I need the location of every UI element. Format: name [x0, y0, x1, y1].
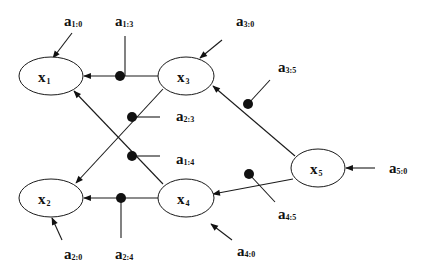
dot-a4-5	[244, 169, 254, 179]
dot-a1-3	[115, 71, 125, 81]
label-a1-4: a1:4	[176, 151, 194, 167]
network-diagram: x1 x3 x2 x4 x5 a1:0 a1:3 a3:0 a3:5 a2:3 …	[0, 0, 422, 274]
label-a5-0: a5:0	[389, 160, 407, 176]
label-a4-5: a4:5	[278, 206, 296, 222]
edge-x5-x4	[213, 179, 293, 194]
node-x2: x2	[19, 179, 83, 217]
param-labels: a1:0 a1:3 a3:0 a3:5 a2:3 a1:4 a5:0 a4:5 …	[64, 13, 407, 262]
dot-a1-4	[127, 151, 137, 161]
edge-x5-x3	[213, 86, 295, 156]
node-x5: x5	[291, 149, 345, 187]
label-a2-3: a2:3	[176, 108, 194, 124]
label-a3-0: a3:0	[236, 13, 254, 29]
label-a3-5: a3:5	[278, 59, 296, 75]
input-a3-0	[200, 40, 222, 58]
tap-a4-5	[249, 174, 275, 202]
edge-x3-x2	[76, 89, 163, 183]
input-a1-0	[53, 33, 72, 58]
node-x1: x1	[19, 57, 83, 95]
input-arrows	[52, 33, 375, 240]
label-a1-0: a1:0	[64, 13, 82, 29]
node-x4: x4	[158, 179, 214, 217]
label-a1-3: a1:3	[115, 13, 133, 29]
label-a2-4: a2:4	[115, 246, 133, 262]
dot-a2-4	[116, 193, 126, 203]
input-a4-0	[211, 224, 232, 240]
input-a2-0	[52, 218, 62, 240]
node-x3: x3	[158, 57, 214, 95]
label-a4-0: a4:0	[237, 243, 255, 259]
dot-a2-3	[127, 112, 137, 122]
label-a2-0: a2:0	[64, 246, 82, 262]
dot-a3-5	[243, 99, 253, 109]
